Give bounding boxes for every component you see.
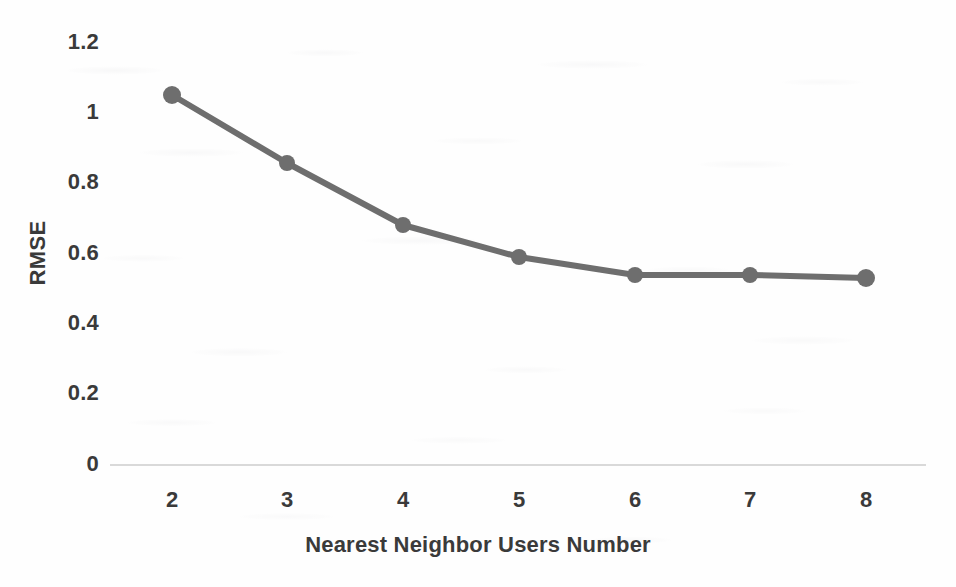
data-point-marker: [395, 217, 411, 233]
x-tick-label-5: 5: [479, 489, 559, 511]
data-point-marker: [627, 267, 643, 283]
x-tick-label-7: 7: [710, 489, 790, 511]
data-point-marker: [857, 269, 875, 287]
x-axis-title: Nearest Neighbor Users Number: [0, 532, 956, 558]
data-point-marker: [163, 86, 181, 104]
rmse-line-chart: 1.2 1 0.8 0.6 0.4 0.2 0 RMSE 2 3 4 5 6 7…: [0, 0, 956, 587]
data-point-marker: [742, 267, 758, 283]
x-tick-label-4: 4: [363, 489, 443, 511]
x-tick-label-6: 6: [595, 489, 675, 511]
x-tick-label-3: 3: [247, 489, 327, 511]
x-tick-label-8: 8: [826, 489, 906, 511]
x-tick-label-2: 2: [132, 489, 212, 511]
data-point-marker: [511, 249, 527, 265]
data-point-marker: [279, 155, 295, 171]
